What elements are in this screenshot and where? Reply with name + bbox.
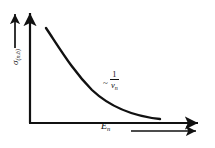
curve-annotation: ~ 1 vn [103, 70, 119, 90]
tilde-symbol: ~ [103, 79, 108, 88]
x-axis-subscript: n [107, 125, 110, 132]
y-axis-subscript: (n,b) [15, 49, 21, 61]
cross-section-figure: σ(n,b) En ~ 1 vn [0, 0, 215, 148]
fraction: 1 vn [110, 70, 119, 90]
fraction-numerator: 1 [111, 70, 117, 79]
fraction-denominator: vn [110, 81, 119, 91]
velocity-subscript: n [115, 84, 118, 90]
x-axis-label: En [101, 121, 110, 133]
y-axis-symbol: σ [10, 61, 20, 65]
y-axis-label: σ(n,b) [11, 44, 21, 70]
